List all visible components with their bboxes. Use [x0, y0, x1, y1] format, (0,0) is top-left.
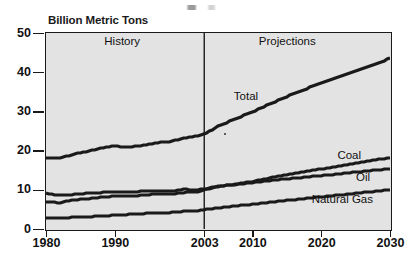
y-tick-mark	[33, 33, 44, 35]
y-tick-label: 30	[5, 104, 31, 118]
y-tick-label: 10	[5, 182, 31, 196]
x-tick-label: 2020	[292, 236, 352, 250]
y-tick-label: 0	[5, 222, 31, 236]
x-tick-mark	[321, 231, 323, 237]
annotation-natural-gas: Natural Gas	[312, 193, 373, 205]
scan-speck	[224, 133, 226, 135]
y-tick-mark	[33, 111, 44, 113]
x-tick-mark	[204, 231, 206, 237]
x-tick-label: 1990	[85, 236, 145, 250]
y-tick-mark	[33, 229, 44, 231]
series-line-oil	[46, 169, 390, 195]
x-tick-label: 2030	[361, 236, 420, 250]
emissions-line-chart: Billion Metric Tons 01020304050 19801990…	[0, 0, 420, 263]
x-tick-mark	[46, 231, 48, 237]
series-line-total	[46, 58, 390, 158]
y-tick-mark	[33, 150, 44, 152]
y-tick-label: 50	[5, 26, 31, 40]
y-axis-title: Billion Metric Tons	[48, 14, 148, 26]
x-tick-mark	[252, 231, 254, 237]
annotation-projections: Projections	[259, 35, 316, 47]
x-tick-mark	[115, 231, 117, 237]
annotation-oil: Oil	[356, 171, 370, 183]
y-tick-label: 20	[5, 143, 31, 157]
annotation-history: History	[104, 35, 140, 47]
y-tick-mark	[33, 190, 44, 192]
scan-artifact-smudge	[186, 5, 224, 10]
annotation-coal: Coal	[337, 149, 361, 161]
x-tick-label: 1980	[17, 236, 77, 250]
annotation-total: Total	[234, 90, 258, 102]
x-tick-label: 2010	[223, 236, 283, 250]
y-tick-mark	[33, 72, 44, 74]
y-tick-label: 40	[5, 65, 31, 79]
x-tick-mark	[390, 231, 392, 237]
